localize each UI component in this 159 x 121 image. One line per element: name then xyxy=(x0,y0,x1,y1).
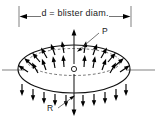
pressure-arrow xyxy=(61,55,66,67)
pressure-arrow xyxy=(108,62,118,75)
reaction-arrow xyxy=(20,84,24,96)
reaction-arrow xyxy=(124,84,128,96)
reaction-arrow xyxy=(42,92,46,104)
center-axis-up-arrow-icon xyxy=(72,29,77,35)
pressure-arrow xyxy=(40,58,48,71)
blister-diagram-figure: d = blister diam. xyxy=(0,0,159,121)
pressure-label: P xyxy=(102,26,108,36)
reaction-arrow xyxy=(53,94,57,106)
pressure-arrow xyxy=(49,43,57,56)
pressure-arrow xyxy=(60,41,66,54)
arrow-left-icon xyxy=(20,14,28,19)
center-origin-marker xyxy=(71,66,76,71)
pressure-arrow xyxy=(82,55,87,67)
center-axis-group xyxy=(71,29,76,116)
reaction-label: R xyxy=(47,103,53,113)
pressure-arrow xyxy=(51,56,57,69)
reaction-label-group: R xyxy=(47,96,75,114)
dimension-label: d = blister diam. xyxy=(41,8,108,18)
arrow-right-icon xyxy=(123,14,131,19)
center-axis-down-arrow-icon xyxy=(72,110,77,116)
diagram-canvas: d = blister diam. xyxy=(0,0,159,121)
dimension-group: d = blister diam. xyxy=(19,6,131,27)
reaction-arrow xyxy=(103,92,107,104)
pressure-arrow xyxy=(100,58,108,71)
pressure-arrow xyxy=(91,56,97,69)
pressure-arrow xyxy=(30,62,40,75)
reaction-arrow xyxy=(81,95,85,107)
reaction-arrow xyxy=(92,94,96,106)
reaction-arrow xyxy=(31,89,35,101)
reaction-arrow xyxy=(114,89,118,101)
